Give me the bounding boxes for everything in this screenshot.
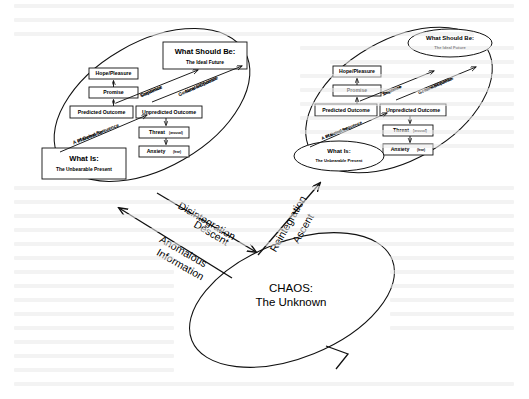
- right-promise-label: Promise: [347, 87, 368, 93]
- right-predicted-label: Predicted Outcome: [322, 107, 370, 113]
- left-what-should-be-box: What Should Be: The Ideal Future: [163, 42, 247, 69]
- left-ideal-sub: The Ideal Future: [186, 60, 224, 65]
- right-anxiety-label: Anxiety: [391, 146, 410, 152]
- right-hope-label: Hope/Pleasure: [339, 68, 375, 74]
- left-continue-label-2: Sequence: [139, 84, 163, 99]
- right-continue-label-2: Sequence: [381, 84, 403, 97]
- right-frame-group: What Should Be: The Ideal Future Hope/Pl…: [281, 0, 518, 203]
- right-unpredicted-box: Unpredicted Outcome: [380, 104, 446, 116]
- right-order-ellipse: [281, 0, 518, 203]
- right-present-title: What Is:: [327, 148, 350, 154]
- right-anxiety-paren: (fear): [417, 148, 425, 152]
- left-present-sub: The Unbearable Present: [56, 167, 112, 172]
- right-present-sub: The Unbearable Present: [316, 158, 364, 163]
- maps-of-meaning-diagram: What Should Be: The Ideal Future Hope/Pl…: [0, 0, 529, 399]
- right-promise-box: Promise: [333, 85, 381, 96]
- right-generate-label-2: New Sequence: [424, 75, 455, 92]
- left-generate-label-2: New Sequence: [184, 75, 219, 95]
- diagram-stage: What Should Be: The Ideal Future Hope/Pl…: [0, 0, 529, 399]
- left-predicted-box: Predicted Outcome: [70, 106, 133, 118]
- left-hope-label: Hope/Pleasure: [95, 70, 131, 76]
- left-anxiety-box: Anxiety (fear): [139, 146, 189, 157]
- left-promise-box: Promise: [89, 87, 138, 98]
- left-anxiety-label: Anxiety: [147, 148, 166, 154]
- left-promise-label: Promise: [103, 89, 124, 95]
- right-unpredicted-label: Unpredicted Outcome: [386, 107, 440, 113]
- chaos-loop-arrowhead: [326, 346, 348, 369]
- left-present-title: What Is:: [69, 154, 99, 163]
- left-plan-label-2: of Behavior: [76, 128, 104, 144]
- right-threat-box: Threat (arousal): [383, 125, 433, 136]
- left-threat-box: Threat (arousal): [139, 127, 189, 138]
- left-threat-label: Threat: [149, 129, 165, 135]
- right-predicted-box: Predicted Outcome: [315, 104, 377, 116]
- right-hope-box: Hope/Pleasure: [333, 66, 381, 77]
- left-anxiety-paren: (fear): [173, 150, 181, 154]
- right-what-is-node: What Is: The Unbearable Present: [294, 141, 384, 171]
- left-unpredicted-label: Unpredicted Outcome: [142, 109, 196, 115]
- chaos-subtitle: The Unknown: [256, 296, 327, 308]
- right-threat-paren: (arousal): [413, 129, 427, 133]
- right-ideal-title: What Should Be:: [426, 35, 474, 41]
- left-what-is-box: What Is: The Unbearable Present: [42, 148, 126, 179]
- right-plan-label-2: of Behavior: [325, 126, 350, 140]
- chaos-title: CHAOS:: [269, 282, 313, 294]
- right-threat-label: Threat: [393, 127, 409, 133]
- left-frame-group: What Should Be: The Ideal Future Hope/Pl…: [28, 0, 276, 213]
- left-unpredicted-box: Unpredicted Outcome: [136, 106, 202, 118]
- left-threat-paren: (arousal): [169, 131, 183, 135]
- left-ideal-title: What Should Be:: [175, 47, 236, 56]
- right-what-should-be-node: What Should Be: The Ideal Future: [408, 29, 492, 57]
- left-hope-box: Hope/Pleasure: [89, 68, 138, 79]
- right-anxiety-box: Anxiety (fear): [383, 144, 433, 155]
- flow-arrows-group: Disintegration Descent Anomalous Informa…: [119, 183, 320, 282]
- right-ideal-sub: The Ideal Future: [434, 45, 466, 50]
- left-predicted-label: Predicted Outcome: [78, 109, 126, 115]
